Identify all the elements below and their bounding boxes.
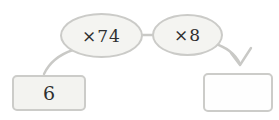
operation-label-x74: ×74 bbox=[82, 26, 121, 46]
multiplication-machine-diagram: ×74 ×8 6 bbox=[0, 0, 279, 120]
start-value: 6 bbox=[43, 82, 55, 104]
start-value-box: 6 bbox=[12, 75, 86, 111]
curve-from-start-box bbox=[44, 50, 73, 74]
operation-oval-x8: ×8 bbox=[152, 14, 223, 56]
operation-oval-x74: ×74 bbox=[60, 13, 143, 58]
result-answer-box[interactable] bbox=[203, 73, 273, 112]
operation-label-x8: ×8 bbox=[174, 25, 201, 45]
arrowhead-icon bbox=[231, 48, 251, 65]
